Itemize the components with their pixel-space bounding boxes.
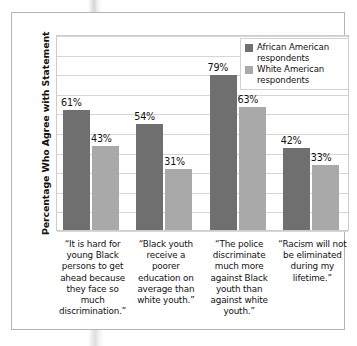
bar-value-label: 33% xyxy=(311,152,332,163)
legend-item: White American respondents xyxy=(245,64,346,85)
bar-white-american xyxy=(312,165,339,230)
legend-swatch-icon xyxy=(245,66,253,74)
gridline xyxy=(57,231,348,232)
bar-value-label: 42% xyxy=(281,135,302,146)
bar-white-american xyxy=(92,146,119,230)
bar-white-american xyxy=(165,169,192,230)
bar-value-label: 79% xyxy=(208,62,229,73)
bar-value-label: 54% xyxy=(134,111,155,122)
bar-african-american xyxy=(210,75,237,230)
bar-african-american xyxy=(136,124,163,230)
figure-frame: Percentage Who Agree with Statement 61%4… xyxy=(11,12,345,330)
category-label: “The police discriminate much more again… xyxy=(205,239,274,317)
category-label: “It is hard for young Black persons to g… xyxy=(58,239,127,317)
category-label: “Black youth receive a poorer education … xyxy=(131,239,200,306)
bar-african-american xyxy=(283,148,310,230)
legend-item: African American respondents xyxy=(245,42,346,63)
category-label: “Racism will not be eliminated during my… xyxy=(278,239,347,284)
bar-african-american xyxy=(63,110,90,230)
bar-white-american xyxy=(239,107,266,230)
bar-group: 54%31% xyxy=(130,36,203,230)
category-axis-labels: “It is hard for young Black persons to g… xyxy=(56,239,349,335)
bar-value-label: 61% xyxy=(61,97,82,108)
bar-value-label: 63% xyxy=(238,94,259,105)
bar-group: 61%43% xyxy=(57,36,130,230)
legend-item-label: White American respondents xyxy=(257,64,346,85)
legend-item-label: African American respondents xyxy=(257,42,346,63)
y-axis-title: Percentage Who Agree with Statement xyxy=(40,35,56,235)
bar-value-label: 31% xyxy=(164,156,185,167)
legend-swatch-icon xyxy=(245,44,253,52)
bar-value-label: 43% xyxy=(91,133,112,144)
chart-legend: African American respondentsWhite Americ… xyxy=(240,38,349,90)
